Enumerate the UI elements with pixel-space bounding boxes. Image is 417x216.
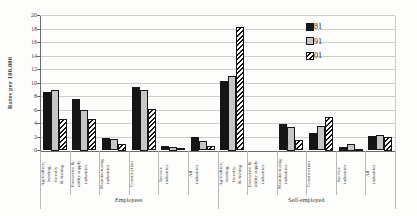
bar-2001 bbox=[118, 144, 126, 151]
bar-1981 bbox=[279, 124, 287, 150]
gridline bbox=[40, 42, 395, 43]
y-tick-label: 12 bbox=[23, 66, 37, 72]
category-label: Manufacturing industries bbox=[277, 153, 307, 195]
gridline bbox=[40, 96, 395, 97]
bar-1991 bbox=[347, 144, 355, 151]
bar-1981 bbox=[191, 137, 199, 151]
bar-1991 bbox=[376, 135, 384, 151]
bar-1991 bbox=[228, 76, 236, 150]
y-axis-title: Rates per 100,000 bbox=[6, 8, 18, 158]
category-separator bbox=[129, 151, 130, 195]
bar-2001 bbox=[59, 119, 67, 151]
bar-2001 bbox=[88, 119, 96, 151]
bar-2001 bbox=[236, 27, 244, 151]
bar-1981 bbox=[132, 87, 140, 150]
category-separator bbox=[336, 151, 337, 195]
bar-1991 bbox=[51, 90, 59, 151]
category-separator bbox=[277, 151, 278, 195]
y-tick-label: 0 bbox=[23, 147, 37, 153]
y-tick-label: 8 bbox=[23, 93, 37, 99]
bar-2001 bbox=[384, 137, 392, 151]
legend-item: 1991 bbox=[306, 37, 322, 46]
bar-1991 bbox=[199, 141, 207, 150]
category-separator bbox=[365, 151, 366, 195]
bar-1981 bbox=[368, 136, 376, 151]
group-label: Employees bbox=[40, 196, 218, 203]
category-label: All industries bbox=[188, 153, 218, 195]
category-separator bbox=[158, 151, 159, 195]
plot-right-border bbox=[395, 16, 396, 151]
y-tick-label: 2 bbox=[23, 134, 37, 140]
bar-1981 bbox=[220, 81, 228, 151]
y-tick-label: 10 bbox=[23, 80, 37, 86]
category-separator bbox=[99, 151, 100, 195]
y-tick-label: 6 bbox=[23, 107, 37, 113]
gridline bbox=[40, 110, 395, 111]
bar-1981 bbox=[309, 133, 317, 151]
category-separator bbox=[188, 151, 189, 195]
bar-1991 bbox=[317, 126, 325, 150]
category-label: All industries bbox=[365, 153, 395, 195]
category-label: Extractive & utility supply industries bbox=[70, 153, 100, 195]
y-tick-label: 16 bbox=[23, 39, 37, 45]
legend-item: 2001 bbox=[306, 51, 322, 60]
category-label: Service industries bbox=[336, 153, 366, 195]
bar-2001 bbox=[295, 140, 303, 151]
gridline bbox=[40, 15, 395, 16]
y-tick-label: 4 bbox=[23, 120, 37, 126]
legend-swatch-1981 bbox=[306, 23, 314, 31]
bar-1981 bbox=[102, 138, 110, 151]
y-tick-label: 18 bbox=[23, 26, 37, 32]
bar-1991 bbox=[287, 127, 295, 151]
gridline bbox=[40, 56, 395, 57]
category-separator bbox=[306, 151, 307, 195]
gridline bbox=[40, 29, 395, 30]
y-axis-line bbox=[40, 16, 41, 151]
gridline bbox=[40, 69, 395, 70]
category-separator bbox=[70, 151, 71, 195]
legend-swatch-2001 bbox=[306, 52, 314, 60]
bar-2001 bbox=[325, 117, 333, 151]
category-label: Agriculture, hunting, forestry & fishing bbox=[40, 153, 70, 195]
category-label: Extractive & utility supply industries bbox=[247, 153, 277, 195]
legend-swatch-1991 bbox=[306, 37, 314, 45]
bar-1981 bbox=[43, 92, 51, 151]
category-label: Manufacturing industries bbox=[99, 153, 129, 195]
bar-1991 bbox=[140, 90, 148, 151]
category-label: Construction bbox=[306, 153, 336, 195]
gridline bbox=[40, 83, 395, 84]
category-label: Agriculture, hunting, forestry & fishing bbox=[218, 153, 248, 195]
bar-chart: Rates per 100,000 02468101214161820 Agri… bbox=[0, 0, 417, 216]
bar-1991 bbox=[110, 139, 118, 150]
legend: 198119912001 bbox=[306, 22, 322, 66]
category-separator bbox=[247, 151, 248, 195]
y-tick-label: 20 bbox=[23, 12, 37, 18]
group-separator bbox=[395, 151, 396, 209]
bar-1991 bbox=[80, 110, 88, 151]
bar-2001 bbox=[148, 109, 156, 150]
legend-item: 1981 bbox=[306, 22, 322, 31]
category-label: Service industries bbox=[158, 153, 188, 195]
y-tick-label: 14 bbox=[23, 53, 37, 59]
category-label: Construction bbox=[129, 153, 159, 195]
group-label: Self-employed bbox=[218, 196, 396, 203]
bar-1981 bbox=[72, 99, 80, 150]
